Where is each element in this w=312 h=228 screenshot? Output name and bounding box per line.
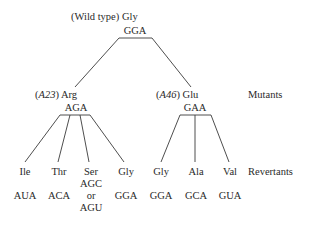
branch-to-ser [80,115,89,162]
revertant-ile: Ile [19,166,30,178]
revertant-gly-2: Gly [153,166,169,178]
mutant-a23-strain: A23 [39,89,56,100]
root-prefix: (Wild type) [71,11,119,22]
mutant-a46-amino-acid: Glu [183,89,199,100]
revertant-ser-codon-b: AGU [80,202,103,214]
revertant-ser-codon-a: AGC [80,178,102,190]
mutant-a46-label: (A46) Glu [156,89,198,101]
row-label-revertants: Revertants [248,166,293,178]
revertant-val: Val [223,166,237,178]
revertant-thr: Thr [51,166,66,178]
revertant-gly-1-codon: GGA [115,190,138,202]
row-label-mutants: Mutants [248,89,282,101]
branch-to-thr [58,115,70,162]
revertant-val-codon: GUA [219,190,242,202]
branch-to-val [211,115,229,162]
revertant-ser: Ser [84,166,98,178]
revertant-ala-codon: GCA [185,190,207,202]
mutant-a23-codon: AGA [65,102,88,114]
branch-to-arg [75,38,119,87]
root-codon: GGA [124,25,147,37]
branch-to-glu [152,38,191,87]
revertant-ser-or: or [87,190,96,202]
mutant-a23-label: (A23) Arg [35,89,77,101]
revertant-thr-codon: ACA [48,190,70,202]
mutant-a23-amino-acid: Arg [61,89,77,100]
revertant-ala: Ala [188,166,203,178]
branch-to-gly-2 [161,115,180,162]
branch-to-gly-1 [90,115,124,162]
root-label: (Wild type) Gly [71,11,138,23]
revertant-ile-codon: AUA [14,190,37,202]
root-amino-acid: Gly [122,11,138,22]
revertant-gly-1: Gly [118,166,134,178]
mutant-a46-codon: GAA [184,102,207,114]
revertant-gly-2-codon: GGA [150,190,173,202]
branch-to-ile [25,115,60,162]
mutant-a46-strain: A46 [160,89,177,100]
